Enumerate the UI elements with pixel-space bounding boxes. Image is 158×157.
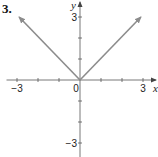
problem-number: 3. — [2, 1, 12, 16]
x-axis-label: x — [152, 82, 158, 94]
y-axis-label: y — [70, 0, 76, 11]
y-tick-label-3: 3 — [71, 12, 77, 23]
chart: 3. −3 3 0 3 −3 x y — [0, 0, 158, 157]
series-line-right-branch — [80, 17, 141, 80]
series-line-left-branch — [19, 17, 80, 80]
y-tick-label-neg3: −3 — [66, 138, 78, 149]
origin-label: 0 — [73, 83, 79, 94]
x-tick-label-3: 3 — [140, 83, 146, 94]
x-tick-label-neg3: −3 — [11, 83, 23, 94]
